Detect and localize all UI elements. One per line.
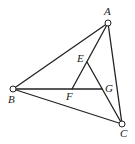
segment-ac bbox=[108, 23, 122, 124]
segment-ab bbox=[13, 23, 108, 89]
vertex-a-marker bbox=[105, 20, 111, 26]
point-label-e: E bbox=[76, 52, 84, 64]
geometry-diagram: ABCEFG bbox=[0, 0, 135, 144]
point-label-a: A bbox=[103, 5, 111, 17]
point-label-b: B bbox=[8, 93, 15, 105]
segments bbox=[13, 23, 122, 124]
point-label-f: F bbox=[65, 90, 73, 102]
point-label-c: C bbox=[120, 127, 128, 139]
vertices bbox=[10, 20, 125, 127]
point-label-g: G bbox=[105, 82, 113, 94]
vertex-b-marker bbox=[10, 86, 16, 92]
